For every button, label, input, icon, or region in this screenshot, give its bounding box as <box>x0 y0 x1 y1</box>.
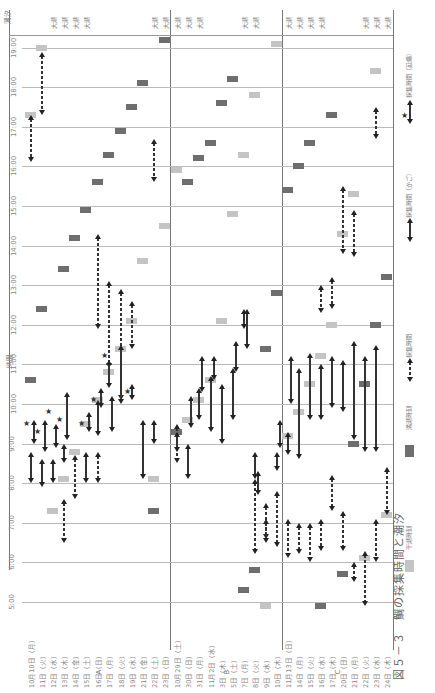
collection-range-dashed <box>320 523 322 547</box>
high-tide-marker <box>216 100 227 106</box>
longline-star-icon: ★ <box>45 408 52 416</box>
y-tick-label: 14:00 <box>10 236 18 256</box>
y-tick-label: 12:00 <box>10 315 18 335</box>
collection-range-basket <box>88 416 90 428</box>
low-tide-marker <box>36 45 47 51</box>
high-tide-marker <box>293 163 304 169</box>
date-label: 22日（土） <box>149 652 159 688</box>
collection-range-basket <box>235 345 237 369</box>
gridline-1300 <box>22 285 393 286</box>
date-label: 30日（日） <box>183 652 193 688</box>
gridline-800 <box>22 483 393 484</box>
low-tide-marker <box>148 476 159 482</box>
gridline-1900 <box>22 48 393 49</box>
date-label: 21日（金） <box>138 652 148 688</box>
low-tide-marker <box>326 322 337 328</box>
gridline-600 <box>22 562 393 563</box>
collection-range-basket <box>257 475 259 491</box>
date-label: 23日（日） <box>160 652 170 688</box>
gridline-700 <box>22 523 393 524</box>
high-tide-marker <box>381 274 392 280</box>
low-tide-marker <box>370 68 381 74</box>
collection-range-dashed <box>309 527 311 559</box>
high-tide-marker <box>137 80 148 86</box>
date-label: 16日（日） <box>93 652 103 688</box>
low-tide-marker <box>171 167 182 173</box>
gridline-1400 <box>22 246 393 247</box>
legend-low-tide-swatch <box>405 560 414 572</box>
collection-range-basket <box>41 463 43 483</box>
high-tide-marker <box>249 567 260 573</box>
high-tide-marker <box>370 322 381 328</box>
date-label: 16日（水） <box>316 652 326 688</box>
tide-label-spring: 大潮 <box>240 17 249 29</box>
legend-star-label: 採集時間（延縄） <box>404 50 413 98</box>
collection-range-basket <box>30 456 32 480</box>
date-label: 17日（木） <box>327 652 337 688</box>
collection-range-basket <box>364 360 366 447</box>
collection-range-basket <box>131 388 133 396</box>
longline-star-icon: ★ <box>124 388 131 396</box>
collection-range-basket <box>111 400 113 428</box>
collection-range-dashed <box>364 555 366 602</box>
date-label: 10月10日（月） <box>26 636 36 688</box>
y-tick-label: 13:00 <box>10 275 18 295</box>
date-label: 19日（水） <box>127 652 137 688</box>
low-tide-marker <box>315 353 326 359</box>
collection-range-basket <box>276 456 278 468</box>
high-tide-marker <box>205 140 216 146</box>
gridline-1500 <box>22 206 393 207</box>
collection-range-dashed <box>331 281 333 305</box>
collection-range-dashed <box>63 503 65 539</box>
y-tick-label: 10:00 <box>10 394 18 414</box>
tide-label-spring: 大潮 <box>71 17 80 29</box>
collection-range-basket <box>85 456 87 480</box>
date-label: 9日（水） <box>261 656 271 688</box>
tide-collection-chart: 潮汐 時間 A B C 図５－３ 鯛の採集時間と潮汐 5:006:007:008… <box>0 0 435 693</box>
y-tick-label: 7:00 <box>8 515 16 531</box>
date-label: 11日（火） <box>37 652 47 688</box>
low-tide-marker <box>137 258 148 264</box>
date-label: 23日（水） <box>371 652 381 688</box>
low-tide-marker <box>216 318 227 324</box>
tide-label-spring: 大潮 <box>173 17 182 29</box>
tide-label-spring: 大潮 <box>49 17 58 29</box>
collection-range-basket <box>153 424 155 440</box>
high-tide-marker <box>36 306 47 312</box>
gridline-900 <box>22 444 393 445</box>
collection-range-dashed <box>30 119 32 159</box>
gridline-500 <box>22 602 393 603</box>
longline-star-icon: ★ <box>34 428 41 436</box>
longline-star-icon: ★ <box>78 420 85 428</box>
date-label: 10月29日（土） <box>172 636 182 688</box>
collection-range-dashed <box>320 289 322 309</box>
collection-range-basket <box>201 360 203 388</box>
collection-range-dashed <box>287 523 289 555</box>
tide-row-divider <box>9 35 393 36</box>
gridline-1100 <box>22 364 393 365</box>
collection-range-basket <box>287 436 289 452</box>
collection-range-basket <box>246 313 248 345</box>
collection-range-basket <box>320 368 322 415</box>
date-label: 14日（金） <box>70 652 80 688</box>
gridline-1700 <box>22 127 393 128</box>
collection-range-basket <box>342 364 344 407</box>
low-tide-marker <box>47 508 58 514</box>
date-label: 10日（木） <box>272 652 282 688</box>
y-tick-label: 16:00 <box>10 156 18 176</box>
collection-range-dashed <box>153 143 155 179</box>
tide-label-spring: 大潮 <box>82 17 91 29</box>
gridline-1600 <box>22 166 393 167</box>
longline-star-icon: ★ <box>90 396 97 404</box>
collection-range-basket <box>290 360 292 400</box>
collection-range-basket <box>279 424 281 444</box>
collection-range-basket <box>221 388 223 439</box>
tide-label-spring: 大潮 <box>361 17 370 29</box>
tide-label-spring: 大潮 <box>161 17 170 29</box>
collection-range-basket <box>243 313 245 325</box>
collection-range-dashed <box>331 479 333 507</box>
collection-range-basket <box>120 349 122 400</box>
collection-range-basket <box>232 372 234 415</box>
collection-range-basket <box>176 436 178 448</box>
top-axis-label: 潮汐 <box>2 10 12 24</box>
